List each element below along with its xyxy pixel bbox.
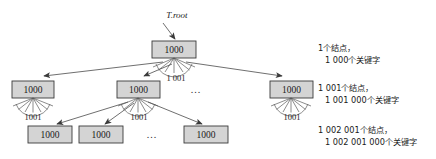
node-value: 1000 [129,85,148,95]
annotation-level-0-line2: 1 000个关键字 [318,55,380,67]
node-value: 1000 [282,85,301,95]
annotation-level-0: 1个结点， 1 000个关键字 [318,43,380,67]
root-pointer-arrow [163,23,175,39]
tree-node-root[interactable]: 1000 1 001 [152,41,196,83]
edge-root-to-n1 [44,62,163,76]
tree-node-leaf-2[interactable]: 1000 [79,126,123,143]
annotation-level-2-line2: 1 002 001 000个关键字 [318,137,417,149]
node-value: 1000 [165,45,184,55]
annotation-level-1: 1 001个结点， 1 001 000个关键字 [318,83,399,107]
node-value: 1000 [24,85,43,95]
node-value: 1000 [92,130,111,140]
tree-node-level1-left[interactable]: 1000 1001 [12,81,54,122]
tree-node-leaf-1[interactable]: 1000 [28,126,72,143]
annotation-level-1-line1: 1 001个结点， [318,83,373,93]
ellipsis-level2: ... [147,129,158,140]
child-count-label: 1001 [284,112,301,122]
root-pointer-group: T.root [163,10,188,39]
annotation-level-1-line2: 1 001 000个关键字 [318,95,399,107]
root-label: T.root [166,10,188,20]
edge-n2-to-l1 [57,102,128,124]
edge-root-to-n3 [186,62,282,76]
tree-node-level1-middle[interactable]: 1000 1001 [117,81,160,122]
edges-root-to-level1 [44,62,282,76]
tree-node-level1-right[interactable]: 1000 1001 [270,81,313,122]
child-count-label: 1001 [25,112,42,122]
node-value: 1000 [41,130,60,140]
ellipsis-level1: ... [191,84,202,95]
child-count-label: 1 001 [166,73,185,83]
annotation-level-0-line1: 1个结点， [318,43,355,53]
btree-figure: T.root 1000 [0,0,436,159]
node-value: 1000 [197,130,216,140]
annotation-level-2-line1: 1 002 001个结点， [318,125,392,135]
tree-node-leaf-3[interactable]: 1000 [184,126,228,143]
annotation-level-2: 1 002 001个结点， 1 002 001 000个关键字 [318,125,417,149]
edges-level1-to-level2 [57,102,202,124]
child-count-label: 1001 [131,112,148,122]
